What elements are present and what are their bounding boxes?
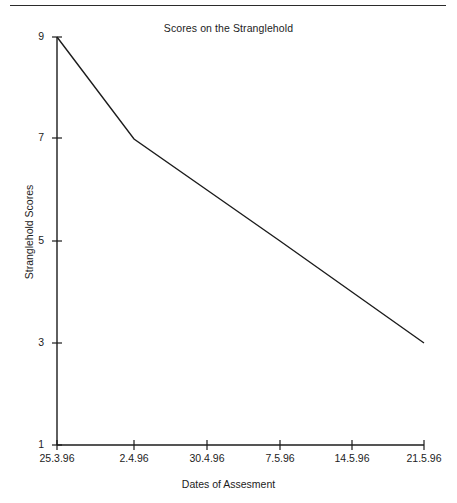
y-tick-label-0: 9 [22, 30, 44, 42]
y-tick-label-2: 5 [22, 234, 44, 246]
plot-area [0, 0, 457, 503]
x-tick-label-0: 25.3.96 [22, 452, 92, 464]
x-tick-label-3: 7.5.96 [245, 452, 315, 464]
x-tick-label-4: 14.5.96 [317, 452, 387, 464]
x-tick-label-2: 30.4.96 [172, 452, 242, 464]
y-tick-label-1: 7 [22, 131, 44, 143]
data-series-line [57, 37, 424, 343]
y-tick-label-3: 3 [22, 336, 44, 348]
x-tick-label-1: 2.4.96 [99, 452, 169, 464]
x-tick-label-5: 21.5.96 [389, 452, 457, 464]
y-tick-label-4: 1 [22, 438, 44, 450]
chart-figure: Scores on the Stranglehold Stranglehold … [0, 0, 457, 503]
